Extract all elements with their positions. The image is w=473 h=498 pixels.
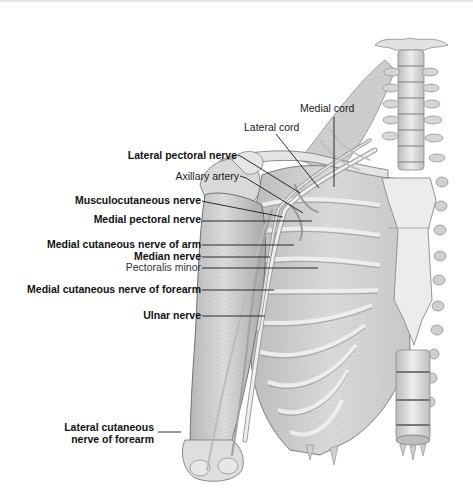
label-musculocutaneous-nerve: Musculocutaneous nerve xyxy=(75,194,201,206)
label-lateral-cord: Lateral cord xyxy=(244,121,299,133)
rib-cage xyxy=(249,166,410,465)
label-pectoralis-minor: Pectoralis minor xyxy=(126,261,201,273)
label-axillary-artery: Axillary artery xyxy=(175,170,239,182)
label-lateral-cutaneous-nerve-of-forearm: Lateral cutaneous nerve of forearm xyxy=(60,421,154,445)
label-ulnar-nerve: Ulnar nerve xyxy=(143,309,201,321)
label-medial-pectoral-nerve: Medial pectoral nerve xyxy=(94,213,201,225)
label-medial-cutaneous-nerve-of-forearm: Medial cutaneous nerve of forearm xyxy=(27,283,201,295)
arm xyxy=(182,193,265,481)
label-medial-cutaneous-nerve-of-arm: Medial cutaneous nerve of arm xyxy=(47,238,201,250)
label-lateral-pectoral-nerve: Lateral pectoral nerve xyxy=(128,149,237,161)
label-medial-cord: Medial cord xyxy=(300,102,354,114)
